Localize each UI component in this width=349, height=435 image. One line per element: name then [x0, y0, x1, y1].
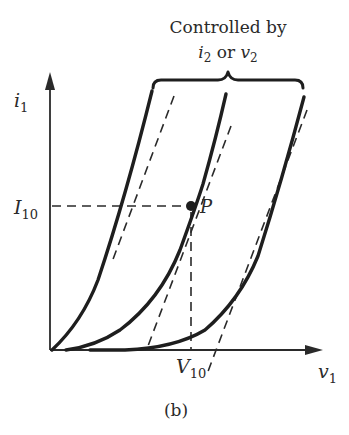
x-axis-arrow-icon	[305, 345, 323, 355]
i10-label: I10	[13, 196, 38, 222]
annotation-line-2: i2 or v2	[198, 42, 258, 65]
characteristic-curve-1	[52, 91, 152, 350]
iv-characteristic-diagram: Controlled by i2 or v2 i1 v1 P I10 V10 (…	[0, 0, 349, 435]
figure-caption: (b)	[164, 400, 188, 420]
annotation-v2-symbol: v	[241, 42, 251, 62]
curly-brace	[153, 72, 303, 88]
y-axis-subscript: 1	[20, 100, 28, 115]
y-axis-arrow-icon	[45, 72, 55, 90]
x-axis-symbol: v	[318, 360, 329, 382]
y-axis-label: i1	[14, 89, 28, 115]
v10-label: V10	[176, 355, 206, 381]
annotation-v2-subscript: 2	[250, 51, 258, 65]
characteristic-curve-2	[66, 94, 226, 350]
v10-subscript: 10	[190, 366, 207, 381]
x-axis-label: v1	[318, 360, 337, 386]
annotation-i2-subscript: 2	[204, 51, 212, 65]
annotation-or: or	[211, 42, 240, 62]
tangent-line-2	[148, 126, 231, 346]
characteristic-curve-3	[90, 97, 304, 350]
annotation-line-1: Controlled by	[169, 17, 286, 37]
operating-point-label: P	[199, 196, 213, 217]
tangent-line-3	[207, 110, 307, 374]
operating-point-marker	[186, 201, 196, 211]
x-axis-subscript: 1	[329, 371, 337, 386]
i10-subscript: 10	[22, 207, 39, 222]
